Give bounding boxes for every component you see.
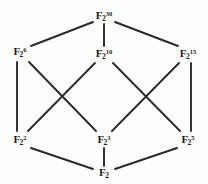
node-f2-6-superscript: 6 bbox=[23, 46, 26, 53]
node-f2-2-superscript: 2 bbox=[23, 134, 26, 141]
node-f2-30-superscript: 30 bbox=[106, 10, 113, 17]
node-f2-5: F25 bbox=[180, 134, 195, 147]
node-f2-3: F23 bbox=[96, 134, 111, 147]
node-f2-1: F2 bbox=[98, 167, 110, 180]
node-f2-3-superscript: 3 bbox=[107, 134, 110, 141]
edge-f2-30-to-f2-6 bbox=[31, 22, 93, 46]
node-f2-30: F230 bbox=[95, 10, 113, 23]
node-f2-5-superscript: 5 bbox=[191, 134, 194, 141]
node-f2-2: F22 bbox=[12, 134, 27, 147]
node-f2-1-subscript: 2 bbox=[105, 171, 109, 180]
lattice-edge-layer bbox=[0, 0, 208, 184]
node-f2-15-superscript: 15 bbox=[190, 48, 197, 55]
node-f2-6: F26 bbox=[12, 46, 27, 59]
edge-f2-30-to-f2-15 bbox=[115, 22, 178, 46]
subfield-lattice-diagram: F230F26F210F215F22F23F25F2 bbox=[0, 0, 208, 184]
node-f2-10: F210 bbox=[95, 48, 113, 61]
node-f2-15: F215 bbox=[179, 48, 197, 61]
edge-f2-5-to-f2-1 bbox=[115, 148, 177, 169]
node-f2-10-superscript: 10 bbox=[106, 48, 113, 55]
edge-f2-2-to-f2-1 bbox=[31, 148, 93, 169]
